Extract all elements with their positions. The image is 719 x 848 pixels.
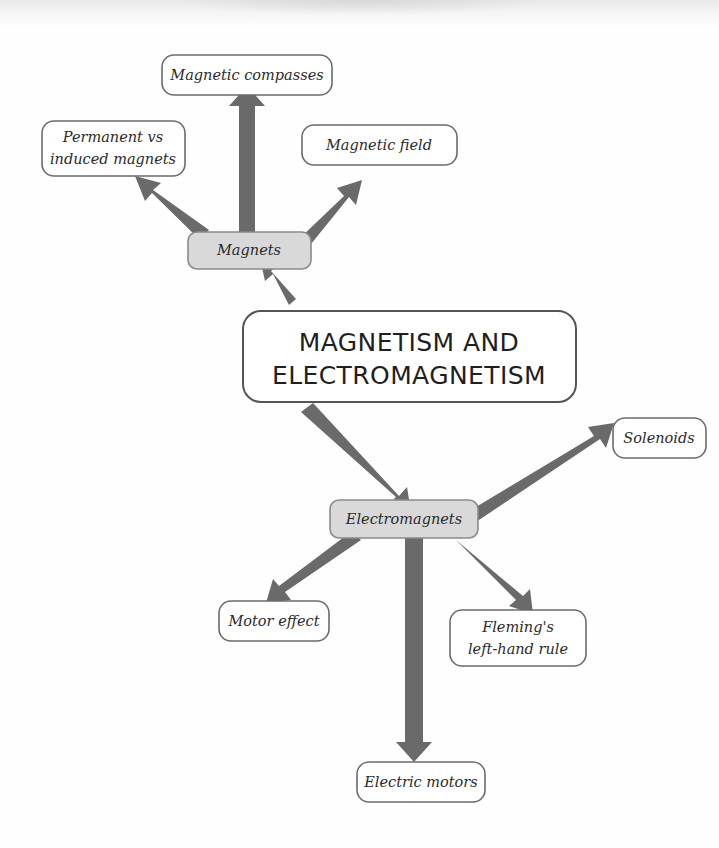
node-center-line1: MAGNETISM AND [299, 328, 519, 357]
node-electromagnets-label: Electromagnets [345, 511, 462, 527]
node-center[interactable]: MAGNETISM AND ELECTROMAGNETISM [243, 311, 576, 402]
node-permanent-vs-induced-magnets[interactable]: Permanent vs induced magnets [42, 121, 185, 176]
node-permanent-vs-induced-magnets-line1: Permanent vs [62, 129, 163, 145]
node-flemings-left-hand-rule-line1: Fleming's [481, 619, 554, 635]
node-solenoids-label: Solenoids [623, 430, 694, 446]
node-magnetic-compasses[interactable]: Magnetic compasses [162, 55, 332, 95]
node-motor-effect-label: Motor effect [227, 613, 319, 629]
arrow-electromagnets-to-electric-motors [396, 538, 432, 762]
node-electric-motors-label: Electric motors [363, 774, 477, 790]
arrow-center-to-electromagnets [301, 403, 411, 512]
node-magnets-label: Magnets [216, 242, 281, 258]
node-magnetic-compasses-label: Magnetic compasses [169, 67, 323, 83]
arrow-magnets-to-permanent-vs-induced-magnets [135, 176, 209, 240]
arrow-electromagnets-to-flemings-left-hand-rule [447, 531, 533, 614]
node-magnetic-field-label: Magnetic field [325, 137, 432, 153]
node-electric-motors[interactable]: Electric motors [357, 762, 485, 802]
arrow-magnets-to-magnetic-compasses [229, 86, 265, 232]
mind-map-canvas: Magnetic compasses Permanent vs induced … [0, 0, 719, 848]
node-permanent-vs-induced-magnets-line2: induced magnets [50, 151, 176, 167]
arrow-electromagnets-to-solenoids [466, 423, 614, 524]
node-electromagnets[interactable]: Electromagnets [330, 500, 478, 538]
node-flemings-left-hand-rule-line2: left-hand rule [468, 641, 568, 657]
node-flemings-left-hand-rule[interactable]: Fleming's left-hand rule [450, 610, 586, 666]
node-center-line2: ELECTROMAGNETISM [272, 361, 546, 390]
node-magnets[interactable]: Magnets [188, 232, 311, 269]
mind-map-svg: Magnetic compasses Permanent vs induced … [0, 0, 719, 848]
node-magnetic-field[interactable]: Magnetic field [302, 125, 457, 165]
arrow-electromagnets-to-motor-effect [266, 531, 361, 603]
node-solenoids[interactable]: Solenoids [613, 418, 706, 458]
node-motor-effect[interactable]: Motor effect [219, 601, 329, 641]
